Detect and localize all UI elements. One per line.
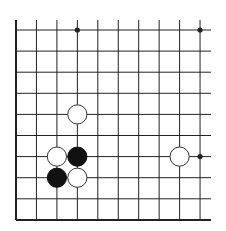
board-grid (16, 20, 211, 220)
black-stone-icon (47, 168, 66, 187)
go-board (0, 0, 226, 231)
black-stone-icon (68, 147, 87, 166)
star-point-icon (197, 27, 202, 32)
white-stone-icon (47, 147, 66, 166)
star-point-icon (197, 154, 202, 159)
white-stone-icon (68, 168, 87, 187)
white-stone-icon (170, 147, 189, 166)
white-stone-icon (68, 105, 87, 124)
star-point-icon (75, 27, 80, 32)
